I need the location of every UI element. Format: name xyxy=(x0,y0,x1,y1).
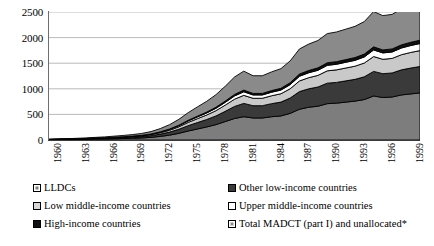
x-axis-tick-label: 1960 xyxy=(53,143,63,163)
x-axis-tick-label: 1975 xyxy=(192,143,202,163)
x-axis-tick-label: 1969 xyxy=(136,143,146,163)
legend-label: Other low-income countries xyxy=(239,182,357,194)
y-axis-tick-label: 1500 xyxy=(22,58,43,69)
legend-item[interactable]: High-income countries xyxy=(33,218,141,230)
y-axis-tick-label: 2500 xyxy=(22,7,43,18)
y-axis: 05001000150020002500 xyxy=(0,0,46,146)
x-axis-tick-label: 1987 xyxy=(303,143,313,163)
x-axis-tick-label: 1981 xyxy=(248,143,258,163)
y-axis-tick-label: 0 xyxy=(38,135,43,146)
x-axis-tick-label: 1972 xyxy=(164,143,174,163)
legend-item[interactable]: Upper middle-income countries xyxy=(228,200,373,212)
legend-label: High-income countries xyxy=(44,218,141,230)
y-axis-tick-label: 2000 xyxy=(22,32,43,43)
plot-canvas xyxy=(49,12,420,140)
x-axis-tick-label: 1966 xyxy=(109,143,119,163)
stacked-area-plot xyxy=(49,12,420,140)
legend-label: Total MADCT (part I) and unallocated* xyxy=(239,218,407,230)
x-axis-line xyxy=(48,140,420,141)
chart-figure: 05001000150020002500 1960196319661969197… xyxy=(0,0,434,246)
legend-item[interactable]: Low middle-income countries xyxy=(33,200,171,212)
x-axis-tick-label: 1999 xyxy=(415,143,425,163)
x-axis-tick-label: 1993 xyxy=(359,143,369,163)
legend-swatch xyxy=(33,220,41,228)
legend-swatch xyxy=(228,220,236,228)
legend-label: LLDCs xyxy=(44,182,76,194)
legend-item[interactable]: Total MADCT (part I) and unallocated* xyxy=(228,218,407,230)
legend-swatch xyxy=(228,202,236,210)
x-axis-tick-label: 1978 xyxy=(220,143,230,163)
chart-legend: LLDCsLow middle-income countriesHigh-inc… xyxy=(0,182,434,240)
legend-swatch xyxy=(33,184,41,192)
plot-area: 05001000150020002500 1960196319661969197… xyxy=(0,0,434,178)
x-axis-tick-label: 1963 xyxy=(81,143,91,163)
x-axis: 1960196319661969197219751978198119841987… xyxy=(49,143,420,178)
legend-label: Upper middle-income countries xyxy=(239,200,373,212)
legend-swatch xyxy=(33,202,41,210)
legend-item[interactable]: LLDCs xyxy=(33,182,76,194)
x-axis-tick-label: 1984 xyxy=(276,143,286,163)
legend-label: Low middle-income countries xyxy=(44,200,171,212)
legend-swatch xyxy=(228,184,236,192)
y-axis-tick-label: 500 xyxy=(27,109,43,120)
x-axis-tick-label: 1996 xyxy=(387,143,397,163)
x-axis-tick-label: 1990 xyxy=(331,143,341,163)
legend-item[interactable]: Other low-income countries xyxy=(228,182,357,194)
y-axis-tick-label: 1000 xyxy=(22,83,43,94)
